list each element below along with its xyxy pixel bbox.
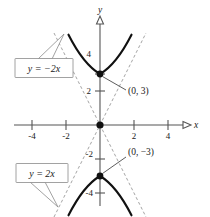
callout-upper-tail <box>38 34 64 59</box>
y-tick-label--2: -2 <box>86 149 94 159</box>
x-tick-label--4: -4 <box>28 131 36 141</box>
y-axis-name: y <box>97 5 103 15</box>
y-axis-arrow <box>97 16 104 24</box>
vertex-dot-upper <box>97 71 104 78</box>
callout-lower-tail <box>30 182 58 207</box>
x-tick-label--2: -2 <box>62 131 70 141</box>
callout-lower-label: y = 2x <box>28 168 55 179</box>
leader-line-lower-vertex <box>103 157 127 174</box>
y-tick-label--4: -4 <box>86 188 94 198</box>
x-tick-label-2: 2 <box>132 131 137 141</box>
point-label-lower-vertex: (0, −3) <box>128 147 154 158</box>
callout-upper-label: y = −2x <box>27 63 61 74</box>
hyperbola-figure: -4 -2 2 4 4 2 -2 -4 x y (0, 3) (0, −3) <box>0 0 210 217</box>
x-axis-arrow <box>183 122 191 129</box>
x-tick-label-4: 4 <box>166 131 171 141</box>
leader-line-upper-vertex <box>103 77 127 91</box>
origin-dot <box>96 121 103 128</box>
y-tick-label-2: 2 <box>87 86 92 96</box>
figure-canvas: -4 -2 2 4 4 2 -2 -4 x y (0, 3) (0, −3) <box>0 0 210 217</box>
point-label-upper-vertex: (0, 3) <box>128 86 149 97</box>
x-axis-name: x <box>193 120 199 130</box>
callout-lower[interactable]: y = 2x <box>16 164 68 208</box>
callout-upper[interactable]: y = −2x <box>15 34 73 78</box>
vertex-dot-lower <box>97 173 104 180</box>
y-tick-label-4: 4 <box>87 49 92 59</box>
